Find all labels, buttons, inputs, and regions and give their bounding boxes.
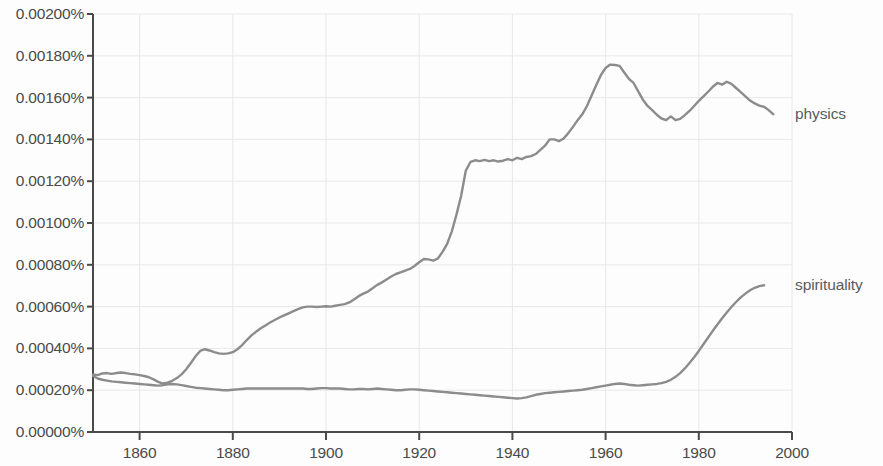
- x-axis-tick-label: 1900: [309, 444, 343, 462]
- x-axis-tick-marks: [140, 432, 792, 440]
- y-axis-tick-label: 0.00040%: [16, 339, 84, 357]
- y-axis-tick-label: 0.00160%: [16, 89, 84, 107]
- y-axis-tick-label: 0.00020%: [16, 381, 84, 399]
- y-axis-tick-label: 0.00100%: [16, 214, 84, 232]
- y-axis-tick-label: 0.00180%: [16, 47, 84, 65]
- x-axis-tick-label: 1860: [123, 444, 157, 462]
- x-axis-tick-label: 1960: [589, 444, 623, 462]
- x-axis-tick-label: 1940: [496, 444, 530, 462]
- series-line-physics: [93, 65, 773, 384]
- x-axis-tick-label: 2000: [775, 444, 809, 462]
- x-axis-tick-label: 1880: [216, 444, 250, 462]
- ngram-chart: 0.00200%0.00180%0.00160%0.00140%0.00120%…: [0, 0, 883, 466]
- x-axis-tick-label: 1920: [402, 444, 436, 462]
- series-label-spirituality: spirituality: [795, 276, 863, 294]
- y-axis-tick-label: 0.00080%: [16, 256, 84, 274]
- series-line-spirituality: [93, 285, 764, 398]
- chart-plot-area: [0, 0, 883, 466]
- y-axis-tick-label: 0.00000%: [16, 423, 84, 441]
- x-axis-tick-label: 1980: [682, 444, 716, 462]
- y-axis-tick-label: 0.00140%: [16, 130, 84, 148]
- y-axis-tick-label: 0.00120%: [16, 172, 84, 190]
- horizontal-gridlines: [94, 14, 792, 390]
- series-label-physics: physics: [795, 105, 846, 123]
- y-axis-tick-label: 0.00060%: [16, 298, 84, 316]
- y-axis-tick-label: 0.00200%: [16, 5, 84, 23]
